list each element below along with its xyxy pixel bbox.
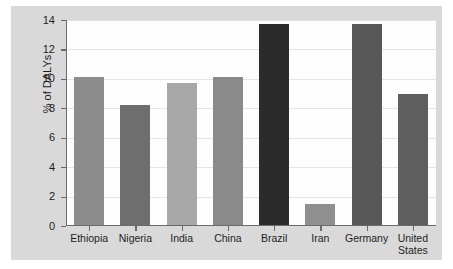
y-tick-mark [61,108,66,109]
y-tick-mark [61,226,66,227]
bar [213,77,243,226]
x-tick-label: Brazil [251,232,297,244]
bar [120,105,150,226]
bar [167,83,197,226]
y-tick-mark [61,49,66,50]
y-tick-mark [61,79,66,80]
y-tick-label: 4 [21,162,55,173]
x-tick-mark [89,226,90,231]
y-tick-mark [61,197,66,198]
x-tick-mark [413,226,414,231]
x-tick-label: Ethiopia [66,232,112,244]
bar [398,94,428,226]
y-axis-label: % of DALYs [41,24,53,144]
bar [259,24,289,226]
y-tick-mark [61,138,66,139]
y-tick-mark [61,167,66,168]
gridline [66,20,436,21]
x-tick-mark [320,226,321,231]
x-tick-label: India [159,232,205,244]
x-tick-label: United States [390,232,436,256]
x-tick-mark [182,226,183,231]
x-axis-line [66,225,436,226]
bar [305,204,335,226]
bar [352,24,382,226]
y-tick-label: 2 [21,191,55,202]
y-tick-label: 0 [21,221,55,232]
x-tick-mark [228,226,229,231]
x-tick-label: Germany [344,232,390,244]
chart-panel: 02468101214 EthiopiaNigeriaIndiaChinaBra… [11,6,442,260]
x-tick-mark [274,226,275,231]
x-tick-label: Nigeria [112,232,158,244]
y-axis-line [66,20,67,226]
x-tick-mark [367,226,368,231]
chart-figure: 02468101214 EthiopiaNigeriaIndiaChinaBra… [0,0,453,269]
bar [74,77,104,226]
x-tick-label: Iran [297,232,343,244]
y-tick-mark [61,20,66,21]
x-tick-label: China [205,232,251,244]
x-tick-mark [135,226,136,231]
